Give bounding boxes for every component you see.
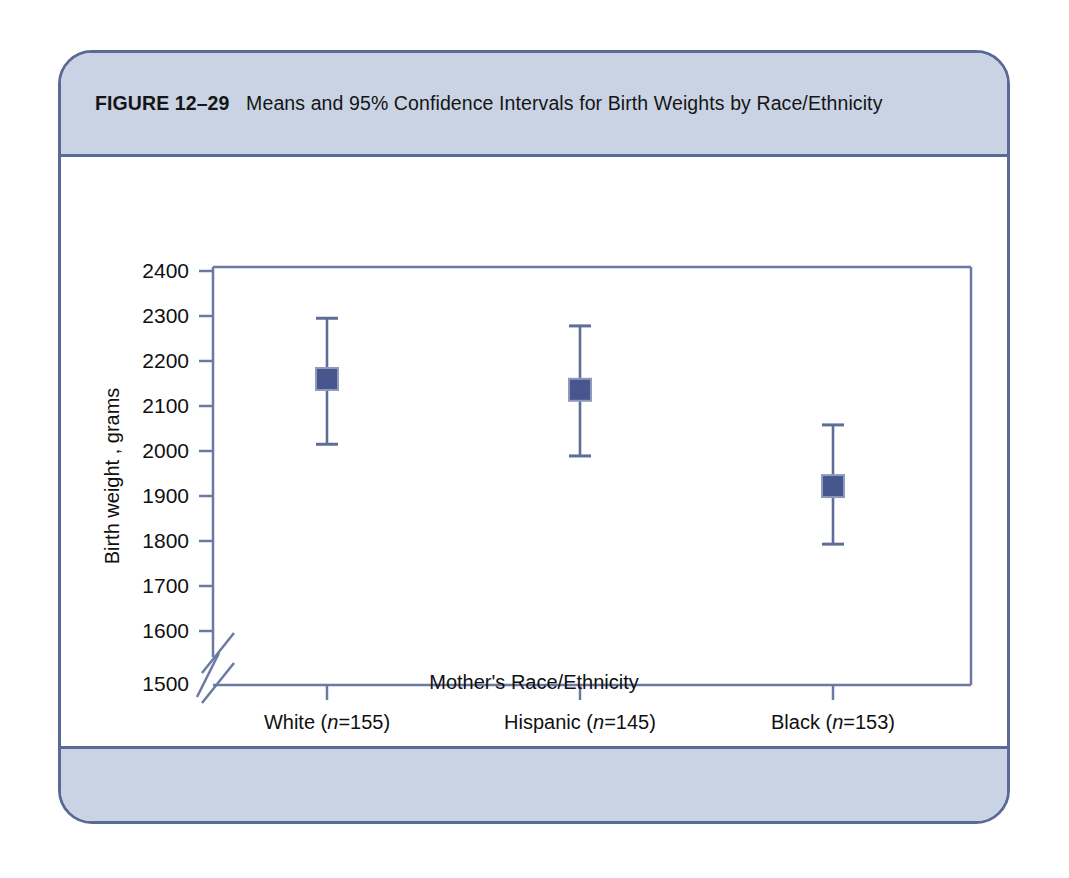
y-tick-label: 1800 (142, 529, 189, 552)
y-tick-label: 1900 (142, 484, 189, 507)
mean-marker (316, 368, 338, 390)
y-axis-ticks (199, 271, 213, 631)
plot-frame (197, 267, 971, 697)
figure-caption-band: FIGURE 12–29 Means and 95% Confidence In… (61, 53, 1007, 157)
y-tick-label: 2200 (142, 349, 189, 372)
figure-bottom-band (61, 746, 1007, 821)
x-axis-title-text: Mother's Race/Ethnicity (61, 671, 1007, 694)
data-points-layer (316, 318, 844, 544)
error-bar-chart: 2400 2300 2200 2100 2000 1900 1800 1700 … (61, 157, 1007, 755)
x-tick-label-white: White (n=155) (264, 711, 390, 733)
x-axis-tick-labels: White (n=155) Hispanic (n=145) Black (n=… (264, 711, 895, 733)
y-axis-title: Birth weight , grams (101, 388, 123, 565)
y-tick-label: 2000 (142, 439, 189, 462)
error-bar-point (569, 326, 591, 456)
figure-number: FIGURE 12–29 (95, 92, 230, 114)
figure-caption-title: Means and 95% Confidence Intervals for B… (246, 92, 882, 114)
plot-canvas: 2400 2300 2200 2100 2000 1900 1800 1700 … (61, 157, 1007, 749)
y-tick-label: 2100 (142, 394, 189, 417)
error-bar-point (822, 425, 844, 544)
y-tick-label: 2300 (142, 304, 189, 327)
figure-panel: FIGURE 12–29 Means and 95% Confidence In… (58, 50, 1010, 824)
y-tick-label: 1600 (142, 619, 189, 642)
y-tick-label: 1700 (142, 574, 189, 597)
y-tick-label: 2400 (142, 259, 189, 282)
figure-caption: FIGURE 12–29 Means and 95% Confidence In… (61, 92, 902, 115)
mean-marker (569, 379, 591, 401)
x-tick-label-hispanic: Hispanic (n=145) (504, 711, 656, 733)
y-axis-tick-labels: 2400 2300 2200 2100 2000 1900 1800 1700 … (142, 259, 189, 695)
mean-marker (822, 475, 844, 497)
x-tick-label-black: Black (n=153) (771, 711, 895, 733)
error-bar-point (316, 318, 338, 444)
